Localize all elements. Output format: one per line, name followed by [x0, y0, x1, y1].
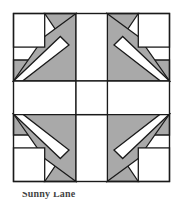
quadrant-top-left [14, 14, 77, 82]
light-square-tr [138, 14, 169, 48]
light-square-centre [76, 81, 107, 115]
quadrant-bottom-right [107, 114, 170, 182]
figure-root: Sunny Lane [0, 0, 180, 202]
caption-strip: Sunny Lane [0, 192, 180, 202]
light-square-bl [14, 148, 45, 182]
light-square-tl [14, 14, 45, 48]
figure-caption: Sunny Lane [22, 192, 162, 199]
quadrant-bottom-left [14, 114, 77, 182]
quilt-block-illustration [0, 0, 180, 202]
light-square-br [138, 148, 169, 182]
quadrant-top-right [107, 14, 170, 82]
quilt-block [14, 14, 170, 182]
